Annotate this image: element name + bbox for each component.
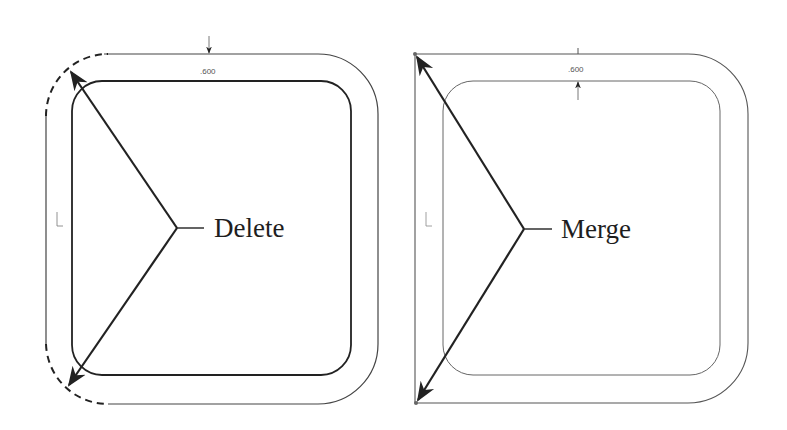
delete-label: Delete <box>214 213 284 243</box>
right-corner-point-top <box>413 52 417 56</box>
right-arrow-bottom <box>418 229 524 400</box>
right-axis-marker-icon <box>426 212 432 226</box>
right-corner-point-bottom <box>414 401 418 405</box>
left-panel-delete: .600 Delete <box>46 36 378 404</box>
left-axis-marker-icon <box>57 212 63 226</box>
right-arrow-top <box>417 57 524 229</box>
left-arrow-top <box>71 72 177 228</box>
left-arrow-bottom <box>69 228 177 385</box>
left-dimension-text: .600 <box>200 67 216 76</box>
left-dashed-top-corner <box>46 54 108 116</box>
right-panel-merge: .600 Merge <box>413 48 748 405</box>
diagram-canvas: .600 Delete .600 Merge <box>0 0 787 430</box>
left-inner-rect <box>72 81 351 375</box>
right-dimension-text: .600 <box>568 65 584 74</box>
merge-label: Merge <box>561 214 631 244</box>
